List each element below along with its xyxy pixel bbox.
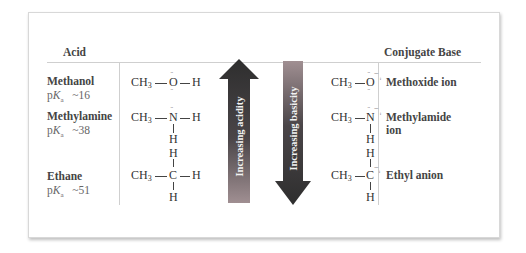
lone-pair-bottom: ··	[170, 87, 173, 94]
ethane-h-right: H	[192, 169, 201, 182]
bond	[180, 83, 190, 84]
bond	[155, 118, 167, 119]
methanol-h: H	[192, 76, 201, 89]
bond	[173, 182, 174, 190]
increasing-basicity-label: Increasing basicity	[288, 71, 299, 187]
header-divider	[47, 62, 481, 63]
lone-pair-top: ··	[170, 70, 173, 77]
base-name-methoxide: Methoxide ion	[386, 76, 457, 89]
lone-pair-top: ··	[170, 105, 173, 112]
methylamine-nitrogen: N	[169, 111, 178, 124]
methylamine-ch3: CH3	[131, 111, 152, 127]
acid-name-methylamine: Methylamine	[47, 110, 112, 123]
ethyl-anion-h-below: H	[366, 191, 375, 204]
bond	[155, 176, 167, 177]
bond	[173, 159, 174, 167]
acid-name-ethane: Ethane	[47, 170, 82, 183]
base-name-methylamide: Methylamide ion	[386, 111, 451, 137]
ethane-carbon: C	[169, 169, 177, 182]
acid-name-methanol: Methanol	[47, 75, 94, 88]
right-column-divider	[378, 63, 379, 205]
acid-base-table-card: Acid Conjugate Base Methanol pKa ~16 CH3…	[28, 12, 500, 238]
pka-methanol: pKa ~16	[47, 89, 90, 107]
methylamide-ch3: CH3	[331, 111, 352, 127]
bond	[180, 176, 190, 177]
header-conjugate-base: Conjugate Base	[384, 46, 461, 58]
bond	[355, 176, 365, 177]
bond	[370, 182, 371, 190]
pka-ethane: pKa ~51	[47, 184, 90, 202]
negative-charge: −	[374, 164, 379, 172]
lone-pair-bottom: ··	[367, 87, 370, 94]
ethyl-anion-ch3: CH3	[331, 169, 352, 185]
increasing-acidity-label: Increasing acidity	[234, 79, 245, 195]
negative-charge: −	[374, 70, 379, 78]
bond	[155, 83, 167, 84]
base-name-ethyl-anion: Ethyl anion	[386, 169, 443, 182]
methoxide-ch3: CH3	[331, 76, 352, 92]
pka-methylamine: pKa ~38	[47, 124, 90, 142]
lone-pair-top: ··	[367, 70, 370, 77]
bond	[355, 118, 365, 119]
ethane-ch3: CH3	[131, 169, 152, 185]
lone-pair-top: ··	[367, 105, 370, 112]
bond	[370, 159, 371, 167]
methylamine-h-below: H	[169, 133, 178, 146]
negative-charge: −	[374, 105, 379, 113]
left-column-divider	[119, 63, 120, 205]
header-acid: Acid	[63, 46, 86, 58]
methylamine-h-right: H	[192, 111, 201, 124]
methanol-ch3: CH3	[131, 76, 152, 92]
methylamide-h-below: H	[366, 133, 375, 146]
ethane-h-below: H	[169, 191, 178, 204]
bond	[355, 83, 365, 84]
ethyl-anion-carbon: C	[366, 169, 374, 182]
bond	[180, 118, 190, 119]
